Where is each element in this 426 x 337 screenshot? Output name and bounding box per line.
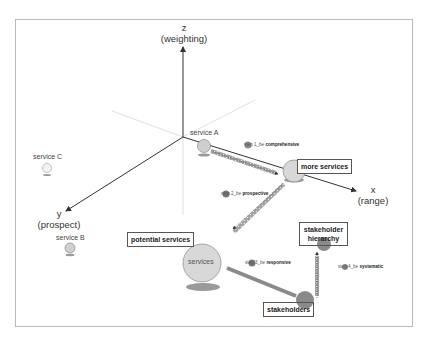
diagram-graphics: [0, 0, 426, 337]
service-c-circle: [43, 164, 52, 173]
z-axis-letter: z: [159, 22, 209, 33]
step-1-label: step 1_be comprehensive: [244, 142, 299, 147]
x-axis-letter: x: [353, 184, 393, 195]
z-axis-label: z (weighting): [159, 22, 209, 44]
more-services-box: more services: [297, 159, 352, 174]
step-4-prefix: step 4_be: [338, 264, 358, 269]
step-1-prefix: step 1_be: [244, 142, 264, 147]
step-3-word: responsive: [266, 260, 290, 265]
service-a-circle: [198, 140, 211, 153]
step-3-label: step 3_be responsive: [245, 260, 291, 265]
step-2-label: step 2_be prospective: [221, 191, 268, 196]
step-4-word: systematic: [359, 264, 383, 269]
potential-services-box: potential services: [127, 232, 194, 247]
step-3-prefix: step 3_be: [245, 260, 265, 265]
service-a-label: service A: [190, 129, 218, 136]
service-b-label: service B: [56, 234, 85, 241]
x-axis-label: x (range): [353, 184, 393, 206]
service-c-label: service C: [33, 153, 62, 160]
step-1-word: comprehensive: [265, 142, 299, 147]
step-2-word: prospective: [242, 191, 268, 196]
y-axis: [66, 137, 183, 211]
stakeholder-hierarchy-line1: stakeholder: [303, 225, 344, 234]
service-b-circle: [65, 243, 75, 253]
diagram-canvas: z (weighting) x (range) y (prospect) ser…: [0, 0, 426, 337]
services-circle-label: services: [188, 258, 214, 265]
stakeholders-box: stakeholders: [263, 302, 314, 317]
y-axis-letter: y: [34, 208, 84, 219]
x-axis-name: (range): [353, 195, 393, 206]
step-2-prefix: step 2_be: [221, 191, 241, 196]
stakeholder-hierarchy-line2: hierarchy: [303, 234, 344, 243]
z-axis-name: (weighting): [159, 33, 209, 44]
y-axis-label: y (prospect): [34, 208, 84, 230]
diagram-frame: [16, 20, 413, 327]
y-axis-name: (prospect): [34, 219, 84, 230]
stakeholder-hierarchy-box: stakeholder hierarchy: [299, 222, 348, 246]
step-4-label: step 4_be systematic: [338, 264, 383, 269]
